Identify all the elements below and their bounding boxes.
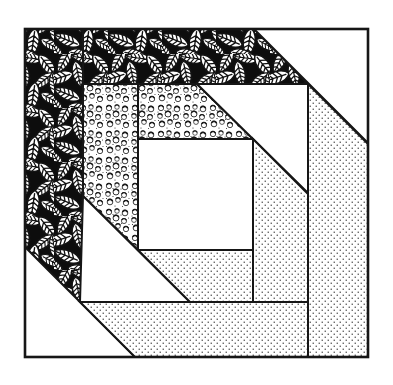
quilt-block-svg	[0, 0, 393, 385]
center-white-square	[138, 139, 253, 250]
quilt-block-figure	[0, 0, 393, 385]
quilt-regions-layer	[25, 29, 368, 357]
